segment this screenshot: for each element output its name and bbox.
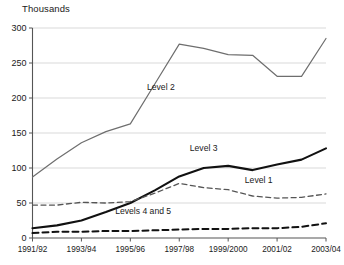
- y-axis-tick-label: 50: [16, 198, 26, 208]
- y-axis-tick-label: 150: [11, 128, 26, 138]
- series-line: [33, 223, 327, 233]
- chart-container: Thousands 050100150200250300 1991/921993…: [0, 0, 344, 265]
- series-line: [33, 39, 327, 178]
- series-labels-group: Level 2Level 3Level 1Levels 4 and 5: [115, 82, 273, 217]
- x-axis-ticks-group: 1991/921993/941995/961997/981999/2000200…: [18, 238, 342, 254]
- series-line: [33, 148, 327, 228]
- x-axis-tick-label: 2001/02: [262, 245, 292, 254]
- series-label: Level 3: [190, 143, 218, 153]
- series-line: [33, 183, 327, 205]
- series-label: Level 2: [147, 82, 175, 92]
- y-axis-tick-label: 0: [21, 233, 26, 243]
- y-axis-tick-label: 300: [11, 23, 26, 33]
- x-axis-tick-label: 1993/94: [67, 245, 97, 254]
- series-label: Level 1: [245, 175, 273, 185]
- y-axis-tick-label: 250: [11, 58, 26, 68]
- x-axis-tick-label: 1999/2000: [209, 245, 248, 254]
- x-axis-tick-label: 1997/98: [164, 245, 194, 254]
- line-chart-plot: 050100150200250300 1991/921993/941995/96…: [0, 0, 344, 265]
- x-axis-tick-label: 1991/92: [18, 245, 48, 254]
- data-series-group: [33, 39, 327, 234]
- y-axis-tick-label: 100: [11, 163, 26, 173]
- y-axis-tick-label: 200: [11, 93, 26, 103]
- x-axis-tick-label: 2003/04: [311, 245, 341, 254]
- series-label: Levels 4 and 5: [115, 206, 171, 216]
- x-axis-tick-label: 1995/96: [116, 245, 146, 254]
- y-axis-ticks-group: 050100150200250300: [11, 23, 32, 243]
